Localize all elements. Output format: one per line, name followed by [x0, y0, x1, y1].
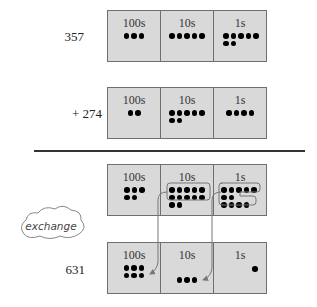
- tens-cell: 10s: [161, 88, 214, 138]
- tens-cell: 10s: [161, 11, 214, 61]
- dot-group: [169, 187, 213, 208]
- dot-group: [124, 187, 160, 200]
- dot-group: [108, 265, 160, 278]
- row-label-357: 357: [24, 29, 84, 45]
- row-label-631: 631: [25, 262, 85, 278]
- column-title: 1s: [214, 248, 266, 263]
- dot-group: [223, 33, 266, 46]
- column-title: 10s: [161, 170, 213, 185]
- ones-cell: 1s: [214, 11, 266, 61]
- ones-cell: 1s: [214, 243, 266, 293]
- dot-group: [221, 187, 266, 208]
- exchange-label: exchange: [22, 220, 80, 232]
- hundreds-cell: 100s: [108, 165, 161, 215]
- row-label-274: + 274: [42, 106, 102, 122]
- place-value-box-631: 100s 10s 1s: [107, 242, 267, 294]
- column-title: 1s: [214, 16, 266, 31]
- place-value-box-274: 100s 10s 1s: [107, 87, 267, 139]
- hundreds-cell: 100s: [108, 88, 161, 138]
- dot-group: [161, 277, 213, 283]
- tens-cell: 10s: [161, 243, 214, 293]
- dot-group: [161, 33, 213, 39]
- column-title: 1s: [214, 170, 266, 185]
- column-title: 100s: [108, 248, 160, 263]
- dot-group: [169, 110, 213, 123]
- column-title: 10s: [161, 248, 213, 263]
- column-title: 100s: [108, 16, 160, 31]
- dot-group: [214, 110, 266, 116]
- dot-group: [252, 266, 258, 272]
- ones-cell: 1s: [214, 165, 266, 215]
- place-value-box-357: 100s 10s 1s: [107, 10, 267, 62]
- tens-cell: 10s: [161, 165, 214, 215]
- sum-rule: [34, 150, 305, 152]
- column-title: 100s: [108, 93, 160, 108]
- hundreds-cell: 100s: [108, 11, 161, 61]
- column-title: 100s: [108, 170, 160, 185]
- place-value-box-combined: 100s 10s 1s: [107, 164, 267, 216]
- column-title: 1s: [214, 93, 266, 108]
- column-title: 10s: [161, 93, 213, 108]
- hundreds-cell: 100s: [108, 243, 161, 293]
- column-title: 10s: [161, 16, 213, 31]
- dot-group: [108, 33, 160, 39]
- ones-cell: 1s: [214, 88, 266, 138]
- dot-group: [108, 110, 160, 116]
